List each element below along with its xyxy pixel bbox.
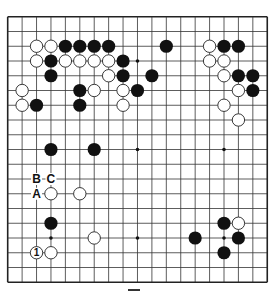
white-stone [74, 188, 86, 200]
white-stone [16, 99, 28, 111]
black-stone [59, 40, 72, 53]
white-stone [232, 114, 244, 126]
diagram-caption-fragment [128, 289, 140, 291]
black-stone [246, 69, 259, 82]
black-stone [88, 143, 101, 156]
black-stone [232, 40, 245, 53]
move-number: 1 [34, 247, 40, 258]
black-stone [246, 84, 259, 97]
star-point [136, 59, 140, 63]
black-stone [232, 231, 245, 244]
white-stone [45, 188, 57, 200]
go-board-diagram: 1 BCA [0, 0, 273, 293]
star-point [49, 236, 53, 240]
white-stone [232, 84, 244, 96]
black-stone [73, 84, 86, 97]
white-stone [45, 40, 57, 52]
white-stone [59, 55, 71, 67]
black-stone [44, 69, 57, 82]
black-stone [73, 99, 86, 112]
white-stone [102, 70, 114, 82]
white-stone [117, 84, 129, 96]
star-point [136, 236, 140, 240]
black-stone [44, 54, 57, 67]
point-label: C [47, 172, 56, 186]
black-stone [44, 217, 57, 230]
star-point [222, 148, 226, 152]
black-stone [160, 40, 173, 53]
white-stone [30, 40, 42, 52]
white-stone [16, 84, 28, 96]
black-stone [217, 246, 230, 259]
white-stone [218, 55, 230, 67]
white-stone [232, 217, 244, 229]
black-stone [102, 40, 115, 53]
black-stone [189, 231, 202, 244]
white-stone [102, 55, 114, 67]
white-stone [218, 70, 230, 82]
white-stone [203, 40, 215, 52]
white-stone [203, 55, 215, 67]
black-stone [131, 84, 144, 97]
black-stone [30, 99, 43, 112]
black-stone [73, 40, 86, 53]
white-stone [30, 55, 42, 67]
white-stone [88, 55, 100, 67]
white-stone [88, 84, 100, 96]
black-stone [116, 54, 129, 67]
black-stone [116, 69, 129, 82]
white-stone [45, 247, 57, 259]
star-point [222, 236, 226, 240]
black-stone [217, 40, 230, 53]
black-stone [88, 40, 101, 53]
star-point [136, 148, 140, 152]
white-stone [74, 55, 86, 67]
black-stone [217, 217, 230, 230]
white-stone [218, 99, 230, 111]
white-stone [117, 99, 129, 111]
point-label: A [32, 187, 41, 201]
black-stone [232, 69, 245, 82]
white-stone [88, 232, 100, 244]
black-stone [145, 69, 158, 82]
point-label: B [32, 172, 41, 186]
black-stone [44, 143, 57, 156]
